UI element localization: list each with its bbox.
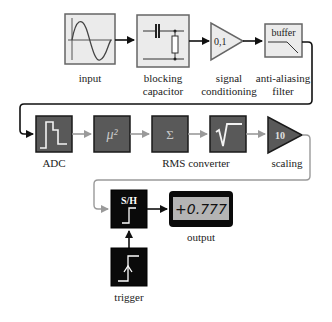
gain-label: 0,1 <box>214 36 227 47</box>
output-label: output <box>187 231 215 243</box>
signal-chain-diagram: input blocking capacitor 0,1 signal cond… <box>0 0 332 322</box>
adc-label: ADC <box>42 157 65 169</box>
anti-aliasing-label-line1: anti-aliasing <box>256 72 311 84</box>
mu-squared-text: μ² <box>105 127 118 142</box>
signal-conditioning-label-line2: conditioning <box>201 85 257 97</box>
anti-aliasing-filter-block: buffer <box>265 24 302 57</box>
sample-hold-text: S/H <box>121 195 137 206</box>
trigger-block <box>111 248 147 286</box>
anti-aliasing-label-line2: filter <box>272 85 294 97</box>
sqrt-block <box>210 116 246 152</box>
scaling-label: scaling <box>271 157 303 169</box>
output-value: +0.777 <box>175 201 227 217</box>
blocking-capacitor-label-line2: capacitor <box>143 85 184 97</box>
sample-hold-block: S/H <box>111 190 147 228</box>
output-display: +0.777 <box>169 191 233 227</box>
sigma-text: Σ <box>166 127 174 142</box>
input-label: input <box>79 72 102 84</box>
input-block <box>65 14 115 64</box>
scaling-amplifier: 10 <box>268 117 302 153</box>
trigger-label: trigger <box>114 291 144 303</box>
signal-conditioning-amplifier: 0,1 <box>211 23 243 60</box>
sum-block: Σ <box>152 116 188 152</box>
adc-block <box>36 116 72 152</box>
scaling-gain-text: 10 <box>275 130 285 141</box>
rms-converter-label: RMS converter <box>162 157 230 169</box>
signal-conditioning-label-line1: signal <box>216 72 242 84</box>
buffer-text: buffer <box>271 27 296 38</box>
blocking-capacitor-block <box>137 15 189 67</box>
square-block: μ² <box>94 116 130 152</box>
blocking-capacitor-label-line1: blocking <box>144 72 183 84</box>
